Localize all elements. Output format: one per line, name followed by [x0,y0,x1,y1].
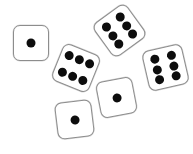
die-pip [83,58,95,70]
die-pip [77,74,89,86]
die-pip-layer [92,3,146,57]
die-pip-layer [14,26,48,60]
die-showing-6 [50,42,102,94]
die-pip [169,60,180,71]
die-pip [112,38,125,51]
die-pip-layer [142,44,189,91]
die-pip [111,92,122,103]
die-pip [151,64,162,75]
die-pip [149,53,160,64]
die-pip [27,39,36,48]
die-pip-layer [51,43,100,92]
die-showing-6 [141,43,190,92]
die-pip-layer [55,100,94,139]
die-pip-layer [96,77,137,118]
die-pip [127,28,140,41]
die-pip [171,71,182,82]
dice-scene [0,0,193,154]
die-pip [166,49,177,60]
die-showing-1 [95,76,138,119]
die-showing-1 [54,99,95,140]
die-showing-1 [13,25,49,61]
die-pip [69,114,79,124]
die-showing-6 [91,2,148,59]
die-pip [154,75,165,86]
